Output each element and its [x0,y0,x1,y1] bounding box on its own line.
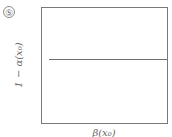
y-axis-label: 1 − α(x₀) [13,42,24,87]
x-axis-label: β(x₀) [92,127,115,137]
horizontal-curve-line [49,59,167,60]
panel-number-label: ⑤ [3,6,15,18]
plot-frame [41,7,168,124]
